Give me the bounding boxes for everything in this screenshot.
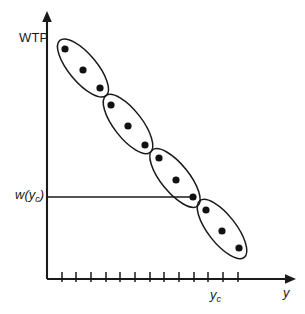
data-point bbox=[124, 122, 131, 129]
threshold-value-paren: ) bbox=[40, 187, 44, 202]
data-point bbox=[141, 141, 148, 148]
threshold-x-subscript: c bbox=[217, 294, 222, 304]
x-axis-label: y bbox=[283, 286, 290, 299]
threshold-x-label: yc bbox=[210, 288, 221, 304]
x-axis-ticks bbox=[62, 272, 238, 282]
y-axis bbox=[42, 11, 52, 279]
data-point bbox=[61, 45, 68, 52]
cluster-2 bbox=[95, 87, 161, 161]
y-axis-arrowhead bbox=[42, 11, 52, 22]
threshold-value-text: w(y bbox=[15, 187, 35, 202]
data-point bbox=[79, 66, 86, 73]
threshold-value-label: w(yc) bbox=[15, 188, 44, 204]
cluster-4 bbox=[189, 192, 255, 266]
figure-canvas bbox=[0, 0, 305, 314]
wtp-figure: WTP w(yc) yc y bbox=[0, 0, 305, 314]
data-point bbox=[189, 193, 196, 200]
data-point bbox=[155, 154, 162, 161]
cluster-1 bbox=[49, 31, 117, 104]
x-axis bbox=[47, 274, 296, 284]
y-axis-label: WTP bbox=[19, 31, 48, 44]
data-point bbox=[235, 244, 242, 251]
x-axis-arrowhead bbox=[285, 274, 296, 284]
data-point bbox=[218, 227, 225, 234]
data-point bbox=[202, 206, 209, 213]
data-point bbox=[172, 176, 179, 183]
data-point bbox=[107, 101, 114, 108]
data-point bbox=[96, 84, 103, 91]
